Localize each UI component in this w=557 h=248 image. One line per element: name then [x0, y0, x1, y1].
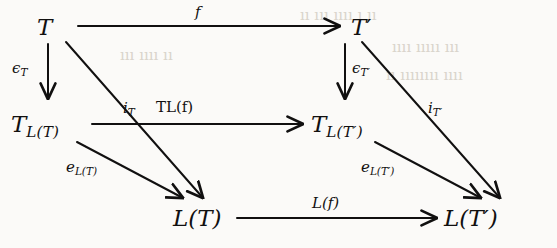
node-top-right: T′	[351, 16, 372, 39]
node-bottom-right-base: L(T′)	[444, 205, 498, 231]
node-bottom-left-base: L(T)	[173, 205, 222, 231]
label-bottom-horizontal-base: L(f)	[312, 194, 339, 212]
label-top-horizontal-base: f	[195, 3, 201, 21]
node-mid-right: TL(T′)	[311, 113, 363, 140]
node-mid-right-base: T	[311, 111, 326, 137]
commutative-diagram-figure: ıı ııı ıııı ı ıı ıııı ııııı ııı ıı ııııı…	[0, 0, 557, 248]
node-mid-left: TL(T)	[11, 113, 59, 140]
label-left-long-diagonal-sub: T	[128, 106, 135, 118]
node-top-left-base: T	[37, 14, 52, 40]
label-right-long-diagonal-sub: T′	[433, 106, 442, 118]
label-bottom-horizontal: L(f)	[312, 196, 339, 211]
label-left-vertical: ϵT	[12, 61, 27, 78]
node-top-right-base: T	[351, 14, 366, 40]
label-left-short-diagonal-sub: L(T)	[75, 165, 97, 177]
node-top-right-prime: ′	[366, 14, 371, 40]
label-top-horizontal: f	[195, 5, 201, 20]
node-bottom-left: L(T)	[173, 207, 222, 230]
label-right-short-diagonal-base: e	[361, 158, 370, 176]
label-left-short-diagonal: eL(T)	[66, 160, 97, 177]
label-right-short-diagonal-sub: L(T′)	[370, 165, 395, 177]
node-mid-right-sub: L(T′)	[326, 123, 362, 141]
label-right-vertical: ϵT′	[352, 61, 370, 78]
label-left-vertical-sub: T	[20, 66, 27, 78]
label-left-short-diagonal-base: e	[66, 158, 75, 176]
label-middle-horizontal-base: TL(f)	[156, 98, 193, 116]
label-left-long-diagonal: iT	[123, 101, 135, 118]
node-mid-left-sub: L(T)	[26, 123, 59, 141]
label-right-long-diagonal: iT′	[428, 101, 442, 118]
node-bottom-right: L(T′)	[444, 207, 498, 230]
label-right-vertical-sub: T′	[360, 66, 369, 78]
node-top-left: T	[37, 16, 52, 39]
label-right-short-diagonal: eL(T′)	[361, 160, 394, 177]
node-mid-left-base: T	[11, 111, 26, 137]
label-middle-horizontal: TL(f)	[156, 100, 193, 115]
